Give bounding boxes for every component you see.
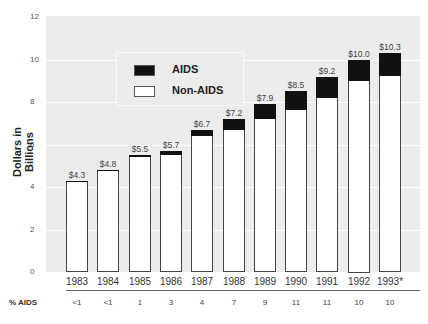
bar-1983 [66,181,88,272]
bar-1986 [160,151,182,272]
bar-1992 [348,60,370,273]
bar-segment-aids [379,53,401,76]
y-tick-label: 0 [30,267,44,276]
bar-value-label: $8.5 [276,80,316,90]
pct-aids-value: 10 [375,298,405,307]
pct-aids-value: 7 [219,298,249,307]
x-tick-label: 1984 [91,276,125,287]
bar-1985 [129,155,151,272]
y-tick-label: 10 [30,55,44,64]
bar-value-label: $6.7 [182,119,222,129]
y-tick-label: 12 [30,12,44,21]
bar-segment-aids [223,119,245,130]
pct-aids-value: 11 [312,298,342,307]
x-tick-label: 1986 [154,276,188,287]
legend: AIDS Non-AIDS [116,52,244,106]
y-axis-label: Dollars in Billions [11,107,35,197]
bar-value-label: $9.2 [307,66,347,76]
x-tick-label: 1992 [342,276,376,287]
bar-segment-aids [285,91,307,110]
bar-value-label: $4.8 [88,159,128,169]
bar-1993 [379,53,401,272]
pct-aids-value: 4 [187,298,217,307]
x-tick-label: 1988 [217,276,251,287]
bar-1989 [254,104,276,272]
pct-aids-value: <1 [93,298,123,307]
bar-segment-aids [66,181,88,182]
x-tick-label: 1983 [60,276,94,287]
bar-1987 [191,130,213,272]
pct-aids-value: 9 [250,298,280,307]
legend-label-non-aids: Non-AIDS [172,84,223,96]
y-tick-label: 8 [30,97,44,106]
pct-table-divider [66,290,420,291]
bar-segment-aids [191,130,213,136]
bar-value-label: $4.3 [57,170,97,180]
bar-value-label: $5.7 [151,140,191,150]
bar-1984 [97,170,119,272]
bar-segment-aids [316,77,338,98]
bar-segment-aids [129,155,151,157]
pct-aids-header: % AIDS [9,298,37,307]
x-tick-label: 1989 [248,276,282,287]
bar-1990 [285,91,307,272]
x-tick-label: 1985 [123,276,157,287]
pct-aids-value: 11 [281,298,311,307]
x-tick-label: 1991 [310,276,344,287]
x-tick-label: 1993* [373,276,407,287]
bar-value-label: $10.3 [370,42,410,52]
y-tick-label: 2 [30,225,44,234]
bar-segment-aids [97,170,119,171]
bar-value-label: $7.2 [214,108,254,118]
bar-value-label: $7.9 [245,93,285,103]
x-tick-label: 1990 [279,276,313,287]
pct-aids-value: <1 [62,298,92,307]
bar-segment-aids [254,104,276,119]
x-tick-label: 1987 [185,276,219,287]
pct-aids-value: 1 [125,298,155,307]
bar-1991 [316,77,338,272]
pct-aids-value: 10 [344,298,374,307]
legend-label-aids: AIDS [172,63,198,75]
bar-segment-aids [160,151,182,155]
legend-swatch-aids [134,65,155,76]
legend-swatch-non-aids [134,86,155,97]
pct-aids-value: 3 [156,298,186,307]
bar-1988 [223,119,245,272]
bar-segment-aids [348,60,370,81]
